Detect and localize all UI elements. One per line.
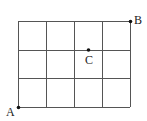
point-a-label: A — [6, 106, 15, 118]
grid-lines — [18, 21, 131, 108]
point-b-dot — [129, 20, 133, 24]
point-b-label: B — [134, 14, 142, 26]
grid-diagram — [0, 0, 147, 121]
point-c-label: C — [85, 54, 93, 66]
point-c-dot — [87, 48, 91, 52]
point-a-dot — [17, 106, 21, 110]
